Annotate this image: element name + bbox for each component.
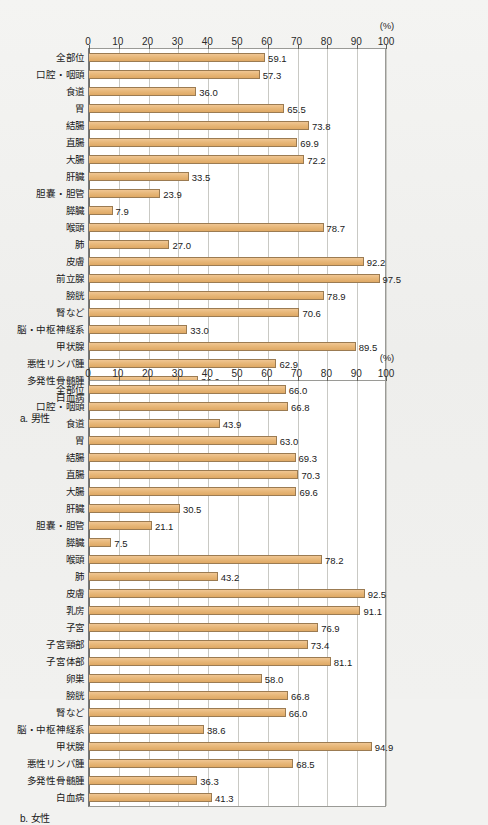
category-label: 全部位 xyxy=(56,53,85,63)
category-label: 胃 xyxy=(75,104,85,114)
bar-track: 58.0 xyxy=(89,670,385,687)
bar: 78.2 xyxy=(89,555,322,564)
bar: 33.5 xyxy=(89,172,189,181)
category-label: 白血病 xyxy=(56,793,85,803)
x-tick-label: 40 xyxy=(202,36,213,47)
bar-value-label: 97.5 xyxy=(383,273,402,284)
bar-track: 57.3 xyxy=(89,66,385,83)
bar-track: 94.9 xyxy=(89,738,385,755)
category-label: 前立腺 xyxy=(56,274,85,284)
bar-value-label: 66.8 xyxy=(291,401,310,412)
bar-value-label: 78.2 xyxy=(325,554,344,565)
category-label: 腎など xyxy=(56,308,85,318)
bar: 68.5 xyxy=(89,759,293,768)
bar-value-label: 81.1 xyxy=(334,656,353,667)
category-label: 結腸 xyxy=(66,453,85,463)
bar-row: 胃65.5 xyxy=(89,100,385,117)
bar-track: 91.1 xyxy=(89,602,385,619)
bar-rows-female: 全部位66.0口腔・咽頭66.8食道43.9胃63.0結腸69.3直腸70.3大… xyxy=(89,381,385,806)
category-label: 脳・中枢神経系 xyxy=(17,725,85,735)
bar-value-label: 59.1 xyxy=(268,52,287,63)
x-tick-label: 50 xyxy=(231,36,242,47)
bar-value-label: 63.0 xyxy=(280,435,299,446)
bar-row: 脳・中枢神経系38.6 xyxy=(89,721,385,738)
bar-row: 全部位59.1 xyxy=(89,49,385,66)
bar-track: 73.8 xyxy=(89,117,385,134)
bar-row: 食道36.0 xyxy=(89,83,385,100)
bar-row: 口腔・咽頭57.3 xyxy=(89,66,385,83)
bar-track: 66.0 xyxy=(89,704,385,721)
x-tick-label: 30 xyxy=(172,368,183,379)
bar-row: 白血病41.3 xyxy=(89,789,385,806)
bar-track: 36.3 xyxy=(89,772,385,789)
x-tick-label: 60 xyxy=(261,36,272,47)
bar-track: 70.3 xyxy=(89,466,385,483)
bar-track: 68.5 xyxy=(89,755,385,772)
bar-value-label: 57.3 xyxy=(263,69,282,80)
bar-row: 皮膚92.5 xyxy=(89,585,385,602)
bar: 66.8 xyxy=(89,402,288,411)
category-label: 食道 xyxy=(66,87,85,97)
x-tick-label: 10 xyxy=(112,368,123,379)
category-label: 肝臓 xyxy=(66,172,85,182)
bar-track: 7.9 xyxy=(89,202,385,219)
bar: 38.6 xyxy=(89,725,204,734)
bar-value-label: 30.5 xyxy=(183,503,202,514)
bar-row: 食道43.9 xyxy=(89,415,385,432)
x-tick-label: 20 xyxy=(142,368,153,379)
category-label: 肺 xyxy=(75,572,85,582)
bar-value-label: 72.2 xyxy=(307,154,326,165)
bar-track: 33.0 xyxy=(89,321,385,338)
category-label: 喉頭 xyxy=(66,223,85,233)
bar-row: 皮膚92.2 xyxy=(89,253,385,270)
x-tick-mark xyxy=(386,45,387,49)
bar-track: 63.0 xyxy=(89,432,385,449)
x-tick-label: 70 xyxy=(291,368,302,379)
category-label: 腎など xyxy=(56,708,85,718)
bar-value-label: 65.5 xyxy=(287,103,306,114)
bar-track: 70.6 xyxy=(89,304,385,321)
x-tick-label: 20 xyxy=(142,36,153,47)
bar-row: 直腸69.9 xyxy=(89,134,385,151)
bar-value-label: 36.3 xyxy=(200,775,219,786)
category-label: 口腔・咽頭 xyxy=(36,402,85,412)
bar-track: 92.5 xyxy=(89,585,385,602)
x-tick-label: 90 xyxy=(351,368,362,379)
bar-track: 66.8 xyxy=(89,398,385,415)
x-tick-label: 10 xyxy=(112,36,123,47)
category-label: 大腸 xyxy=(66,155,85,165)
bar-row: 子宮体部81.1 xyxy=(89,653,385,670)
bar: 21.1 xyxy=(89,521,152,530)
category-label: 膀胱 xyxy=(66,691,85,701)
bar-value-label: 92.5 xyxy=(368,588,387,599)
bar-track: 92.2 xyxy=(89,253,385,270)
x-tick-label: 30 xyxy=(172,36,183,47)
category-label: 膵臓 xyxy=(66,206,85,216)
bar: 30.5 xyxy=(89,504,180,513)
bar: 63.0 xyxy=(89,436,277,445)
bar-row: 肝臓33.5 xyxy=(89,168,385,185)
bar: 69.3 xyxy=(89,453,296,462)
bar-value-label: 21.1 xyxy=(155,520,174,531)
bar-row: 腎など66.0 xyxy=(89,704,385,721)
category-label: 直腸 xyxy=(66,470,85,480)
bar-row: 胃63.0 xyxy=(89,432,385,449)
category-label: 結腸 xyxy=(66,121,85,131)
x-tick-label: 50 xyxy=(231,368,242,379)
bar-row: 胆嚢・胆管23.9 xyxy=(89,185,385,202)
chart-panel-male: (%)0102030405060708090100 全部位59.1口腔・咽頭57… xyxy=(0,0,488,340)
bar-row: 肺27.0 xyxy=(89,236,385,253)
bar-row: 肝臓30.5 xyxy=(89,500,385,517)
bar-value-label: 43.9 xyxy=(223,418,242,429)
category-label: 子宮体部 xyxy=(46,657,85,667)
category-label: 多発性骨髄腫 xyxy=(27,776,85,786)
bar-track: 97.5 xyxy=(89,270,385,287)
bar-row: 子宮76.9 xyxy=(89,619,385,636)
bar-value-label: 7.9 xyxy=(116,205,129,216)
bar: 97.5 xyxy=(89,274,380,283)
bar-value-label: 73.8 xyxy=(312,120,331,131)
category-label: 口腔・咽頭 xyxy=(36,70,85,80)
bar-track: 43.9 xyxy=(89,415,385,432)
bar-track: 65.5 xyxy=(89,100,385,117)
